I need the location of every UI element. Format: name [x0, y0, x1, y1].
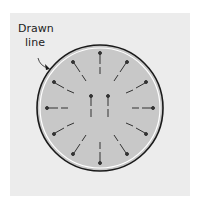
circle-diagram	[0, 0, 202, 209]
arrow-head-icon	[45, 64, 50, 70]
